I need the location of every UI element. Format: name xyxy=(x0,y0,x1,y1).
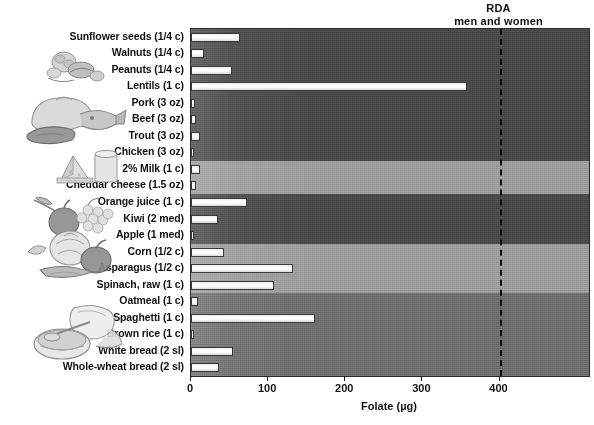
rda-reference-line xyxy=(500,29,502,376)
bar xyxy=(191,264,293,273)
bar xyxy=(191,165,200,174)
category-label: Whole-wheat bread (2 sl) xyxy=(63,361,184,372)
category-label: White bread (2 sl) xyxy=(98,345,184,356)
bar xyxy=(191,181,196,190)
bar xyxy=(191,49,204,58)
x-tick-mark xyxy=(344,376,345,381)
group-band-meat-fish-poultry xyxy=(191,95,589,161)
bar xyxy=(191,297,198,306)
category-label: Kiwi (2 med) xyxy=(123,213,184,224)
bar xyxy=(191,215,218,224)
bar xyxy=(191,132,200,141)
x-tick-label: 400 xyxy=(489,382,507,394)
bar xyxy=(191,82,467,91)
x-tick-label: 200 xyxy=(335,382,353,394)
category-label: Apple (1 med) xyxy=(116,229,184,240)
x-tick-label: 300 xyxy=(412,382,430,394)
category-label: Peanuts (1/4 c) xyxy=(111,64,184,75)
category-label: Beef (3 oz) xyxy=(132,113,184,124)
x-tick-mark xyxy=(499,376,500,381)
category-label: Orange juice (1 c) xyxy=(98,196,184,207)
category-label: Lentils (1 c) xyxy=(127,80,184,91)
bar xyxy=(191,148,194,157)
category-label: Trout (3 oz) xyxy=(129,130,184,141)
category-label: Chicken (3 oz) xyxy=(114,146,184,157)
bar xyxy=(191,281,274,290)
bar xyxy=(191,99,195,108)
bar xyxy=(191,33,240,42)
x-tick-mark xyxy=(190,376,191,381)
category-label: Pork (3 oz) xyxy=(131,97,184,108)
x-tick-label: 100 xyxy=(258,382,276,394)
category-label: Spinach, raw (1 c) xyxy=(97,279,184,290)
rda-label-line2: men and women xyxy=(419,15,579,28)
bar xyxy=(191,198,247,207)
x-tick-label: 0 xyxy=(187,382,193,394)
group-band-fruit xyxy=(191,194,589,244)
category-label: Sunflower seeds (1/4 c) xyxy=(70,31,184,42)
group-band-grains xyxy=(191,293,589,376)
bar xyxy=(191,248,224,257)
group-band-dairy xyxy=(191,161,589,194)
bar xyxy=(191,363,219,372)
bar xyxy=(191,314,315,323)
category-label: 2% Milk (1 c) xyxy=(122,163,184,174)
category-axis-labels: Sunflower seeds (1/4 c)Walnuts (1/4 c)Pe… xyxy=(0,28,187,375)
x-axis-title: Folate (µg) xyxy=(190,400,588,412)
category-label: Spaghetti (1 c) xyxy=(113,312,184,323)
bar xyxy=(191,347,233,356)
x-tick-mark xyxy=(267,376,268,381)
bar xyxy=(191,231,194,240)
bar xyxy=(191,115,196,124)
category-label: Corn (1/2 c) xyxy=(127,246,184,257)
plot-area xyxy=(190,28,590,377)
category-label: Cheddar cheese (1.5 oz) xyxy=(66,179,184,190)
category-label: Asparagus (1/2 c) xyxy=(98,262,184,273)
bar xyxy=(191,330,194,339)
category-label: Brown rice (1 c) xyxy=(107,328,184,339)
x-tick-mark xyxy=(421,376,422,381)
rda-label-line1: RDA xyxy=(419,2,579,15)
category-label: Oatmeal (1 c) xyxy=(119,295,184,306)
x-axis: 0100200300400 xyxy=(190,376,588,382)
category-label: Walnuts (1/4 c) xyxy=(112,47,184,58)
rda-annotation: RDA men and women xyxy=(419,2,579,27)
bar xyxy=(191,66,232,75)
folate-content-chart: RDA men and women Sunflower seeds (1/4 c… xyxy=(0,0,594,425)
